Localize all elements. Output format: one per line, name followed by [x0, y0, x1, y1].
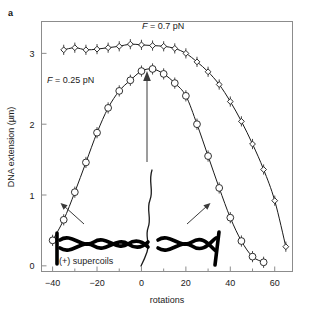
data-point [161, 43, 167, 49]
data-point [227, 214, 234, 221]
y-axis-ticks [42, 53, 47, 265]
data-point [60, 216, 67, 223]
positive-supercoil-arrow [187, 203, 211, 224]
y-tick-label-0: 0 [29, 261, 34, 271]
series-f-0-25-pn [49, 63, 267, 268]
x-tick-label-2: 0 [139, 278, 144, 288]
plot-frame [42, 22, 293, 272]
data-point [71, 189, 78, 196]
data-point [127, 77, 134, 84]
data-point [127, 41, 133, 47]
x-tick-label-4: 40 [225, 278, 235, 288]
data-point [272, 198, 278, 204]
data-point [61, 47, 67, 53]
data-point [72, 45, 78, 51]
y-tick-label-1: 1 [29, 191, 34, 201]
force-label-high: F = 0.7 pN [142, 21, 184, 31]
positive-supercoils-icon [158, 232, 219, 265]
y-axis-title: DNA extension (µm) [6, 107, 16, 188]
data-point [239, 118, 245, 124]
data-point [160, 71, 167, 78]
data-point [171, 80, 178, 87]
data-point [94, 46, 100, 52]
data-point [94, 129, 101, 136]
x-axis-tick-labels: −40−200204060 [45, 278, 280, 288]
x-tick-label-1: −20 [89, 278, 104, 288]
data-point [105, 45, 111, 51]
x-tick-label-5: 60 [270, 278, 280, 288]
data-point [283, 244, 289, 250]
x-tick-label-3: 20 [181, 278, 191, 288]
data-point [172, 46, 178, 52]
y-axis-tick-labels: 0123 [29, 49, 34, 271]
data-point [182, 92, 189, 99]
data-point [238, 238, 245, 245]
y-tick-label-2: 2 [29, 120, 34, 130]
dna-extension-vs-rotations-chart: −40−200204060 0123 rotations DNA extensi… [0, 0, 310, 311]
force-label-low: F = 0.25 pN [47, 75, 94, 85]
data-point [249, 253, 256, 260]
data-point [250, 141, 256, 147]
data-point [49, 237, 56, 244]
data-point [261, 167, 267, 173]
data-point [205, 153, 212, 160]
data-point [194, 121, 201, 128]
y-tick-label-3: 3 [29, 49, 34, 59]
data-point [216, 185, 223, 192]
figure-panel: a −40−200204060 0123 rotations DNA exten… [0, 0, 310, 311]
data-point [150, 43, 156, 49]
data-point [116, 43, 122, 49]
data-point [227, 99, 233, 105]
peak-arrow [143, 71, 151, 162]
x-axis-title: rotations [150, 295, 185, 305]
data-point [149, 66, 156, 73]
data-point [83, 47, 89, 53]
data-point [105, 105, 112, 112]
data-point [138, 68, 145, 75]
data-point [116, 88, 123, 95]
data-point [139, 42, 145, 48]
data-point [83, 159, 90, 166]
negative-supercoils-label: (+) supercoils [59, 256, 114, 266]
data-point [183, 50, 189, 56]
data-point [260, 259, 267, 266]
relaxed-dna-icon [141, 170, 152, 266]
x-tick-label-0: −40 [45, 278, 60, 288]
series-f-0-7-pn [61, 39, 289, 252]
